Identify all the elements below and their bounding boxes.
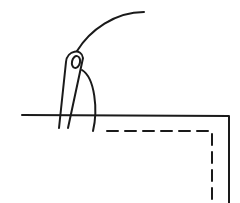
thread-loop-icon: [82, 70, 95, 131]
needle-eye-icon: [71, 55, 81, 68]
thread-upper-icon: [77, 12, 144, 51]
stitch-guide-dashed-line: [107, 131, 212, 203]
fabric-edge-line: [22, 115, 229, 203]
sewing-illustration: [0, 0, 240, 203]
illustration-svg: [0, 0, 240, 203]
